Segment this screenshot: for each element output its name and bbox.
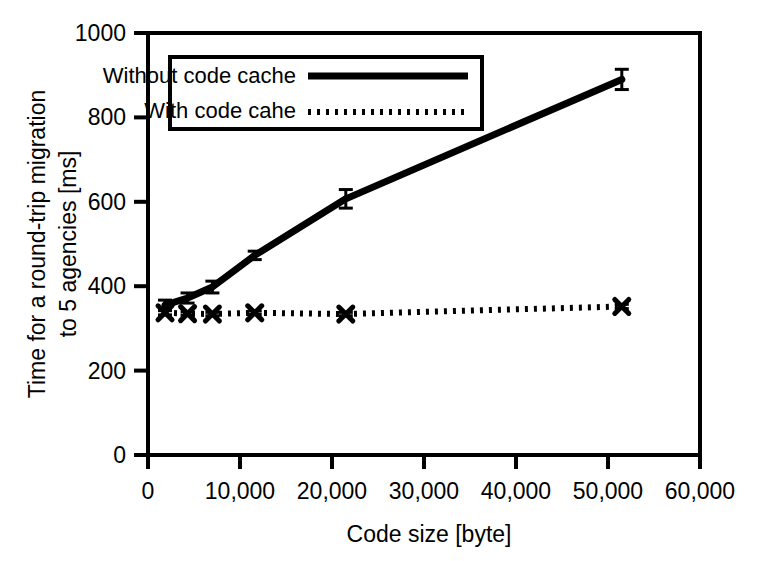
y-tick-label-600: 600 <box>88 189 126 215</box>
legend-label-1: With code cahe <box>144 98 296 123</box>
x-tick-label-30000: 30,000 <box>389 478 459 504</box>
y-axis-title-line1: Time for a round-trip migration <box>24 90 50 398</box>
line-chart: 02004006008001000 010,00020,00030,00040,… <box>0 0 757 561</box>
y-tick-label-800: 800 <box>88 104 126 130</box>
chart-figure: 02004006008001000 010,00020,00030,00040,… <box>0 0 757 561</box>
x-tick-label-10000: 10,000 <box>205 478 275 504</box>
x-tick-label-40000: 40,000 <box>481 478 551 504</box>
y-tick-label-1000: 1000 <box>75 20 126 46</box>
y-tick-label-200: 200 <box>88 358 126 384</box>
legend-label-0: Without code cache <box>103 63 296 88</box>
x-tick-label-50000: 50,000 <box>573 478 643 504</box>
y-tick-label-0: 0 <box>113 442 126 468</box>
x-axis-title: Code size [byte] <box>347 521 512 547</box>
y-tick-label-400: 400 <box>88 273 126 299</box>
x-tick-label-0: 0 <box>142 478 155 504</box>
x-tick-label-60000: 60,000 <box>665 478 735 504</box>
x-tick-label-20000: 20,000 <box>297 478 367 504</box>
y-axis-title-line2: to 5 agencies [ms] <box>55 151 81 338</box>
